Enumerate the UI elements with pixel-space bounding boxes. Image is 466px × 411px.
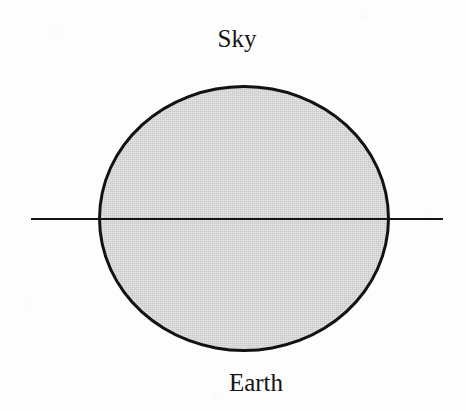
- earth-label: Earth: [0, 370, 466, 395]
- horizon-line: [31, 218, 443, 220]
- sky-label: Sky: [0, 26, 466, 51]
- horizon-diagram: Sky Earth: [0, 0, 466, 411]
